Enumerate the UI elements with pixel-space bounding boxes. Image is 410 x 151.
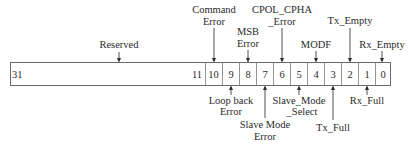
bit-number-5: 5 <box>296 69 301 80</box>
label-modf: MODF <box>301 39 332 63</box>
svg-text:_Error: _Error <box>267 16 296 27</box>
svg-text:_Select: _Select <box>286 106 318 117</box>
svg-text:Error: Error <box>237 38 260 49</box>
arrow-down-icon <box>212 58 216 63</box>
bit-number-4: 4 <box>313 69 319 80</box>
bit-number-8: 8 <box>245 69 250 80</box>
svg-text:Tx_Full: Tx_Full <box>316 122 350 133</box>
svg-text:Tx_Empty: Tx_Empty <box>328 15 374 26</box>
label-rx-empty: Rx_Empty <box>359 39 405 63</box>
arrow-down-icon <box>246 58 250 63</box>
svg-text:MSB: MSB <box>237 26 259 37</box>
svg-text:MODF: MODF <box>301 39 332 50</box>
bit-number-3: 3 <box>330 69 335 80</box>
svg-text:Rx_Full: Rx_Full <box>350 95 385 106</box>
label-loop-back-error: Loop back Error <box>209 86 254 118</box>
bit-number-10: 10 <box>208 69 219 80</box>
svg-text:Error: Error <box>254 131 277 142</box>
arrow-down-icon <box>348 58 352 63</box>
svg-text:Error: Error <box>203 16 226 27</box>
arrow-down-icon <box>380 58 384 63</box>
bit-number-1: 1 <box>364 69 369 80</box>
bit-number-2: 2 <box>347 69 352 80</box>
label-command-error: Command Error <box>192 4 236 63</box>
svg-text:Command: Command <box>192 4 236 15</box>
label-tx-full: Tx_Full <box>316 86 350 134</box>
register-diagram: 31 11 10 9 8 7 6 5 4 3 2 1 0 Reserved Co… <box>0 0 410 151</box>
svg-text:Slave_Mode: Slave_Mode <box>272 95 325 106</box>
bit-number-7: 7 <box>262 69 267 80</box>
svg-text:Reserved: Reserved <box>99 39 139 50</box>
label-slave-mode-error: Slave Mode Error <box>240 86 291 143</box>
label-reserved: Reserved <box>99 39 139 63</box>
bit-number-9: 9 <box>228 69 233 80</box>
bit-number-6: 6 <box>279 69 284 80</box>
arrow-down-icon <box>280 58 284 63</box>
svg-text:Loop back: Loop back <box>209 95 254 106</box>
label-rx-full: Rx_Full <box>350 86 385 107</box>
bit-number-0: 0 <box>380 69 385 80</box>
bit-number-31: 31 <box>12 69 23 80</box>
svg-text:Slave Mode: Slave Mode <box>240 119 291 130</box>
svg-text:Rx_Empty: Rx_Empty <box>359 39 405 50</box>
label-msb-error: MSB Error <box>237 26 260 63</box>
svg-text:Error: Error <box>220 106 243 117</box>
arrow-down-icon <box>117 58 121 63</box>
svg-text:CPOL_CPHA: CPOL_CPHA <box>252 4 313 15</box>
arrow-down-icon <box>314 58 318 63</box>
label-slave-mode-select: Slave_Mode _Select <box>272 86 325 118</box>
label-cpol-cpha-error: CPOL_CPHA _Error <box>252 4 313 63</box>
bit-number-11: 11 <box>192 69 202 80</box>
